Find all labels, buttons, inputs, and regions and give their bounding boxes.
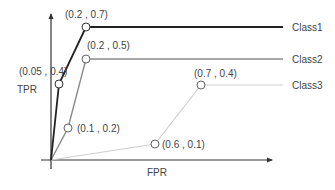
point-marker xyxy=(64,124,72,132)
roc-chart: TPR FPR (0.05 , 0.4) (0.2 , 0.7) (0.1 , … xyxy=(0,0,335,190)
y-axis-label: TPR xyxy=(17,84,37,95)
point-marker xyxy=(82,23,90,31)
point-marker xyxy=(55,80,63,88)
x-axis-label: FPR xyxy=(147,167,167,178)
point-marker xyxy=(82,55,90,63)
point-label: (0.7 , 0.4) xyxy=(194,68,237,79)
legend-class1: Class1 xyxy=(292,22,323,33)
point-marker xyxy=(151,140,159,148)
point-label: (0.6 , 0.1) xyxy=(162,139,205,150)
point-marker xyxy=(197,81,205,89)
point-label: (0.1 , 0.2) xyxy=(77,123,120,134)
legend-class3: Class3 xyxy=(292,80,323,91)
legend-class2: Class2 xyxy=(292,54,323,65)
point-label: (0.05 , 0.4) xyxy=(19,66,67,77)
point-label: (0.2 , 0.7) xyxy=(65,9,108,20)
point-label: (0.2 , 0.5) xyxy=(87,40,130,51)
